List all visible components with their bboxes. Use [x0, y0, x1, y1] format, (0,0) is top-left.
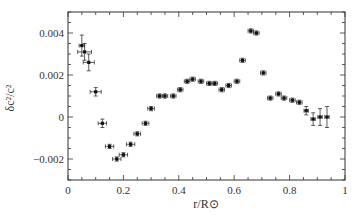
x-axis-label: r/R⊙ — [193, 197, 218, 211]
y-axis-label: δc²/c² — [3, 84, 17, 111]
data-point — [78, 44, 92, 61]
y-tick-label: 0 — [59, 111, 65, 123]
y-tick-label: 0.002 — [39, 69, 64, 81]
data-point — [90, 88, 101, 96]
data-point — [325, 107, 329, 128]
plot-frame — [68, 12, 345, 180]
data-points — [78, 29, 330, 161]
data-point — [304, 107, 308, 115]
x-tick-label: 0 — [65, 184, 71, 196]
data-point — [318, 109, 322, 126]
data-point — [276, 92, 282, 96]
x-tick-label: 0.8 — [283, 184, 297, 196]
data-point — [177, 88, 183, 92]
x-tick-label: 0.6 — [227, 184, 241, 196]
x-tick-labels: 00.20.40.60.81 — [65, 184, 348, 196]
data-point — [126, 142, 134, 146]
data-point — [98, 119, 106, 127]
data-point — [207, 81, 213, 85]
data-point — [105, 144, 113, 148]
data-point — [190, 77, 196, 81]
data-point — [240, 58, 246, 62]
x-tick-label: 1 — [342, 184, 348, 196]
y-tick-label: 0.004 — [39, 27, 64, 39]
data-point — [219, 88, 225, 92]
data-point — [311, 113, 315, 126]
data-point — [119, 153, 127, 157]
x-tick-label: 0.4 — [172, 184, 186, 196]
data-point — [198, 79, 204, 83]
data-point — [248, 29, 254, 33]
data-point — [281, 96, 287, 100]
data-point — [212, 81, 218, 85]
data-point — [157, 94, 163, 98]
data-point — [267, 96, 273, 100]
x-tick-label: 0.2 — [117, 184, 131, 196]
data-point — [170, 94, 176, 98]
data-point — [234, 79, 240, 83]
data-point — [297, 100, 303, 104]
data-point — [113, 157, 121, 161]
axis-ticks — [68, 12, 345, 180]
data-point — [254, 31, 260, 35]
y-tick-labels: −0.00200.0020.004 — [33, 27, 64, 165]
data-point — [134, 132, 141, 136]
data-point — [290, 98, 296, 102]
data-point — [261, 71, 267, 75]
y-tick-label: −0.002 — [33, 153, 64, 165]
data-point — [142, 121, 149, 125]
data-point — [226, 83, 232, 87]
chart: 00.20.40.60.81 −0.00200.0020.004 r/R⊙ δc… — [0, 0, 360, 220]
data-point — [148, 107, 155, 111]
data-point — [162, 94, 168, 98]
data-point — [184, 79, 190, 83]
